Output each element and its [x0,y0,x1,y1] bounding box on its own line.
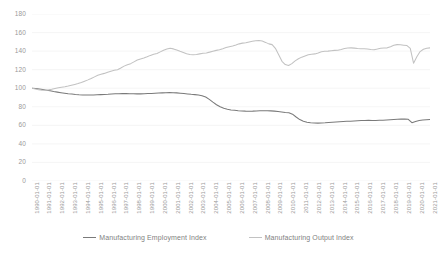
x-tick-label: 2016-01-01 [367,182,373,214]
x-tick-label: 2014-01-01 [342,182,348,214]
y-tick-label: 160 [15,29,26,36]
x-tick-label: 2008-01-01 [265,182,271,214]
x-tick-label: 2015-01-01 [354,182,360,214]
legend-swatch-output [249,237,262,238]
x-tick-label: 1999-01-01 [149,182,155,214]
legend-label-employment: Manufacturing Employment Index [99,234,206,241]
y-tick-label: 80 [19,104,26,111]
chart-legend: Manufacturing Employment Index Manufactu… [0,230,437,244]
x-tick-label: 2012-01-01 [316,182,322,214]
x-tick-label: 1993-01-01 [72,182,78,214]
x-tick-label: 1991-01-01 [46,182,52,214]
y-tick-label: 40 [19,141,26,148]
x-axis: 1990-01-011991-01-011992-01-011993-01-01… [32,182,430,228]
x-tick-label: 1994-01-01 [85,182,91,214]
x-tick-label: 2007-01-01 [252,182,258,214]
x-tick-label: 2017-01-01 [380,182,386,214]
x-tick-label: 2011-01-01 [303,182,309,213]
legend-item-employment[interactable]: Manufacturing Employment Index [83,234,206,241]
x-tick-label: 2013-01-01 [329,182,335,214]
series-line-employment [32,88,430,123]
x-tick-label: 2021-01-01 [432,182,438,214]
series-layer [32,40,430,123]
legend-swatch-employment [83,237,96,238]
series-line-output [32,40,430,90]
x-tick-label: 1997-01-01 [123,182,129,214]
x-tick-label: 2019-01-01 [406,182,412,214]
gridlines [32,14,430,181]
x-tick-label: 1998-01-01 [136,182,142,214]
y-tick-label: 100 [15,85,26,92]
plot-area [32,14,430,181]
y-tick-label: 120 [15,66,26,73]
y-tick-label: 180 [15,11,26,18]
y-tick-label: 0 [22,178,26,185]
x-tick-label: 2003-01-01 [200,182,206,214]
x-tick-label: 2018-01-01 [393,182,399,214]
x-tick-label: 2000-01-01 [162,182,168,214]
x-tick-label: 1990-01-01 [34,182,40,214]
legend-item-output[interactable]: Manufacturing Output Index [249,234,354,241]
y-tick-label: 140 [15,48,26,55]
x-tick-label: 1992-01-01 [59,182,65,214]
x-tick-label: 2006-01-01 [239,182,245,214]
legend-label-output: Manufacturing Output Index [265,234,354,241]
x-tick-label: 2005-01-01 [226,182,232,214]
x-tick-label: 2009-01-01 [277,182,283,214]
plot-svg [32,14,430,181]
x-tick-label: 2002-01-01 [188,182,194,214]
x-tick-label: 1995-01-01 [98,182,104,214]
x-tick-label: 2010-01-01 [290,182,296,214]
x-tick-label: 1996-01-01 [111,182,117,214]
x-tick-label: 2020-01-01 [419,182,425,214]
y-axis: 020406080100120140160180 [0,14,30,181]
x-tick-label: 2001-01-01 [175,182,181,214]
y-tick-label: 60 [19,122,26,129]
y-tick-label: 20 [19,159,26,166]
x-tick-label: 2004-01-01 [213,182,219,214]
